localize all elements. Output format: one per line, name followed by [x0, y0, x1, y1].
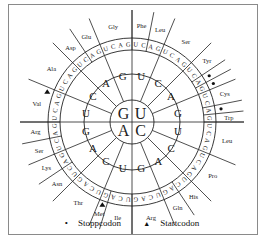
amino-acid-ser: Ser: [182, 38, 192, 45]
wheel-lines: [20, 10, 244, 234]
start-codon-triangle-icon: [99, 202, 105, 207]
amino-acid-trp: Trp: [224, 114, 233, 121]
third-base-CCC: C: [195, 158, 203, 165]
first-base-C: C: [135, 122, 146, 139]
third-base-UCC: C: [168, 51, 175, 59]
amino-acid-leu: Leu: [222, 137, 233, 144]
third-base-AGA: A: [51, 130, 59, 136]
amino-acid-pro: Pro: [208, 172, 217, 179]
amino-acid-tyr: Tyr: [203, 57, 213, 64]
legend: •Stoppcodon ▲Startcodon: [0, 218, 264, 228]
third-base-AGC: C: [52, 138, 60, 144]
third-base-ACC: C: [88, 185, 95, 193]
stop-codon-dot-icon: [208, 74, 211, 77]
amino-acid-met: Met: [94, 210, 105, 217]
third-base-CCU: U: [198, 152, 206, 160]
third-base-CGC: C: [148, 194, 154, 202]
second-base-AU: U: [119, 162, 127, 174]
third-base-CGU: U: [155, 191, 162, 199]
third-base-ACU: U: [95, 188, 103, 196]
amino-acid-asp: Asp: [65, 44, 75, 51]
amino-acid-lys: Lys: [42, 164, 52, 171]
third-base-GGC: C: [110, 42, 116, 50]
amino-acid-cys: Cys: [220, 90, 231, 97]
third-base-GGU: U: [102, 44, 109, 52]
codon-wheel: UCAGUCAGUCAGUCAGUCAGUCAGUCAGUCAGUCAGUCAG…: [0, 0, 264, 241]
stop-codon-dot-icon: [212, 82, 215, 85]
second-base-UC: C: [154, 77, 161, 89]
amino-acid-gln: Gln: [173, 204, 184, 211]
second-base-GG: G: [119, 70, 127, 82]
third-base-AGU: U: [54, 145, 62, 152]
stop-codon-dot-icon: •: [65, 218, 68, 228]
amino-acid-val: Val: [33, 100, 42, 107]
third-base-AUA: A: [110, 194, 117, 202]
legend-stop-label: Stoppcodon: [78, 218, 121, 228]
second-base-GU: U: [82, 107, 90, 119]
third-base-AUU: U: [125, 196, 130, 203]
amino-acid-asn: Asn: [52, 180, 63, 187]
second-base-CU: U: [174, 125, 182, 137]
second-base-CG: G: [137, 162, 145, 174]
third-base-ACA: A: [81, 180, 89, 189]
second-base-AA: A: [89, 142, 97, 154]
start-codon-triangle-icon: [44, 89, 50, 94]
second-base-UU: U: [137, 70, 145, 82]
amino-acid-phe: Phe: [137, 22, 147, 29]
second-base-CA: A: [154, 155, 162, 167]
third-base-UUA: A: [148, 42, 155, 50]
third-base-GCC: C: [61, 78, 69, 85]
legend-start: ▲Startcodon: [138, 218, 204, 228]
amino-acid-thr: Thr: [73, 199, 83, 206]
third-base-UUU: U: [133, 40, 138, 47]
third-base-CGG: G: [133, 196, 138, 203]
stop-codon-dot-icon: [219, 107, 222, 110]
second-base-divider: [81, 138, 116, 173]
first-base-G: G: [118, 105, 130, 122]
second-base-divider: [148, 138, 183, 173]
amino-acid-ala: Ala: [47, 65, 57, 72]
third-base-UGC: C: [204, 100, 212, 106]
third-base-GCU: U: [57, 85, 65, 93]
amino-acid-his: His: [189, 193, 199, 200]
amino-acid-leu: Leu: [155, 26, 166, 33]
third-base-GGG: G: [126, 40, 131, 47]
third-base-GGA: A: [118, 41, 124, 49]
third-base-UCA: A: [174, 55, 182, 64]
second-base-AC: C: [102, 155, 109, 167]
first-base-U: U: [135, 105, 147, 122]
amino-acid-gly: Gly: [108, 23, 119, 30]
third-base-CGA: A: [140, 195, 146, 203]
third-base-UGA: A: [205, 108, 213, 114]
third-base-CUA: A: [204, 138, 212, 145]
second-base-UA: A: [167, 90, 175, 102]
amino-acid-glu: Glu: [81, 33, 92, 40]
second-base-CC: C: [167, 142, 174, 154]
third-base-GCA: A: [65, 71, 74, 79]
third-base-GUU: U: [50, 115, 57, 120]
third-base-AUC: C: [118, 195, 123, 203]
third-base-GUA: A: [52, 100, 60, 107]
amino-acid-ser: Ser: [35, 147, 45, 154]
third-base-GUC: C: [51, 108, 59, 113]
amino-acid-arg: Arg: [30, 128, 41, 135]
third-base-UGG: G: [206, 116, 213, 121]
legend-start-label: Startcodon: [160, 218, 199, 228]
amino-acid-divider: [53, 173, 81, 201]
third-base-UUC: C: [141, 41, 146, 49]
third-base-CUU: U: [206, 123, 213, 128]
start-codon-triangle-icon: ▲: [143, 220, 150, 228]
second-base-GC: C: [89, 90, 96, 102]
first-base-A: A: [118, 122, 130, 139]
second-base-divider: [148, 71, 183, 106]
third-base-UGU: U: [201, 92, 209, 99]
legend-stop: •Stoppcodon: [60, 218, 126, 228]
second-base-UG: G: [174, 107, 182, 119]
second-base-GA: A: [102, 77, 110, 89]
third-base-CUC: C: [205, 131, 213, 136]
third-base-UCU: U: [162, 47, 170, 55]
second-base-AG: G: [82, 125, 90, 137]
third-base-CCA: A: [190, 164, 199, 172]
third-base-AGG: G: [50, 123, 57, 128]
second-base-divider: [81, 71, 116, 106]
